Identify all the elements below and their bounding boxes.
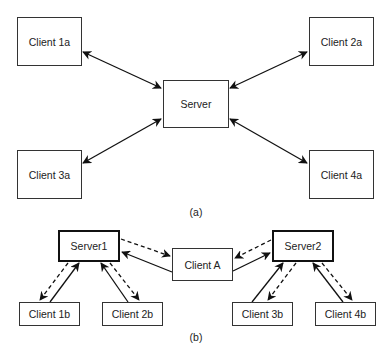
edge-client1b-server1-solid xyxy=(50,263,79,302)
node-client-4b: Client 4b xyxy=(315,302,376,326)
node-client-1b: Client 1b xyxy=(19,302,80,326)
edge-client4a-server xyxy=(230,119,307,163)
caption-a: (a) xyxy=(190,206,203,218)
node-client-3a: Client 3a xyxy=(17,150,82,199)
edge-client3b-server2-solid xyxy=(252,263,283,302)
edge-clientA-server1-solid xyxy=(122,252,172,272)
edge-client4b-server2-solid xyxy=(313,263,343,302)
edge-client1a-server xyxy=(83,52,161,88)
node-client-4a: Client 4a xyxy=(309,150,374,199)
edge-server1-clientA-dashed xyxy=(121,239,170,256)
node-client-3b: Client 3b xyxy=(232,302,293,326)
edge-server1-client1b-dashed xyxy=(40,263,68,300)
node-client-a: Client A xyxy=(172,248,233,281)
edge-client2a-server xyxy=(230,52,307,88)
node-client-2a: Client 2a xyxy=(309,17,374,66)
caption-b: (b) xyxy=(190,331,203,343)
node-server1: Server1 xyxy=(58,230,120,262)
node-server: Server xyxy=(163,80,229,128)
node-client-2b: Client 2b xyxy=(102,302,163,326)
node-client-1a: Client 1a xyxy=(17,17,82,66)
edge-server2-client3b-dashed xyxy=(268,263,296,300)
node-server2: Server2 xyxy=(272,230,334,262)
edge-client3a-server xyxy=(83,119,161,163)
